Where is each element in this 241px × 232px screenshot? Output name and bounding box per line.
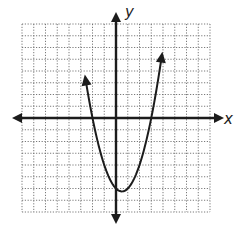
y-axis-top-arrow-icon (111, 12, 121, 22)
curve-left-arrow-icon (82, 75, 92, 87)
plot-area (82, 52, 166, 192)
parabola-curve (85, 56, 161, 192)
y-axis-label: y (124, 3, 135, 21)
y-axis-bottom-arrow-icon (111, 214, 121, 224)
x-axis-right-arrow-icon (214, 113, 224, 123)
coordinate-plane: x y (0, 0, 241, 232)
x-axis-label: x (223, 110, 233, 128)
curve-right-arrow-icon (156, 52, 166, 64)
x-axis-left-arrow-icon (12, 113, 22, 123)
